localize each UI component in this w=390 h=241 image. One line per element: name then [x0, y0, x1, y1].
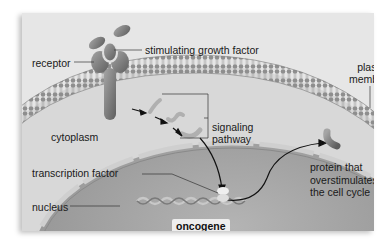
bound-growth-factor [104, 44, 116, 61]
cytoplasm-label: cytoplasm [51, 131, 98, 143]
growth-factor-2 [112, 23, 133, 40]
growth-factor-label: stimulating growth factor [145, 44, 259, 56]
diagram-panel: receptor stimulating growth factor plasm… [22, 13, 374, 231]
protein-label: protein that overstimulates the cell cyc… [310, 161, 374, 199]
nucleus-label: nucleus [32, 201, 68, 213]
signaling-pathway-label: signaling pathway [212, 121, 253, 145]
transcription-factor-label: transcription factor [32, 167, 118, 179]
receptor-label: receptor [32, 57, 71, 69]
plasma-membrane-label: plasma membrane [349, 61, 374, 85]
transcription-factor-shape [217, 187, 229, 195]
oncogene-label: oncogene [172, 219, 230, 231]
